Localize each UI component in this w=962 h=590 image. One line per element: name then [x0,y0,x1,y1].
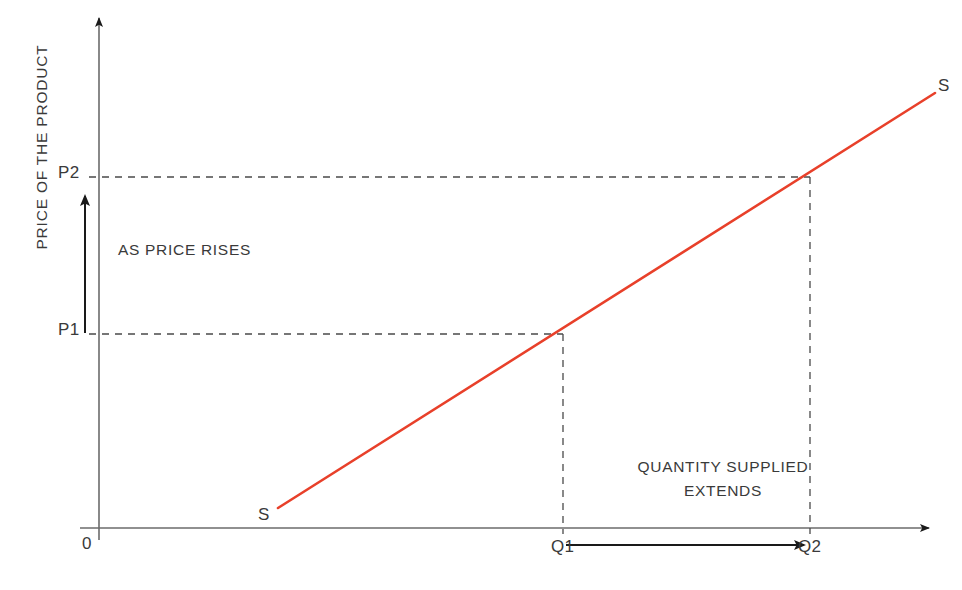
origin-label: 0 [82,534,92,554]
annotation-price-rises: AS PRICE RISES [118,241,251,259]
x-tick-label-q1: Q1 [551,537,574,557]
annotation-quantity-line2: EXTENDS [684,482,762,499]
annotation-quantity-line1: QUANTITY SUPPLIED [638,458,809,475]
supply-curve-label-upper: S [938,76,950,96]
annotation-quantity-extends: QUANTITY SUPPLIEDEXTENDS [608,455,838,503]
y-tick-label-p1: P1 [58,320,80,340]
y-tick-label-p2: P2 [58,163,80,183]
supply-curve-label-lower: S [258,505,270,525]
x-tick-label-q2: Q2 [798,537,821,557]
supply-curve-diagram: PRICE OF THE PRODUCT P2 P1 Q1 Q2 0 AS PR… [0,0,962,590]
supply-curve [278,93,935,508]
y-axis-label: PRICE OF THE PRODUCT [33,17,51,277]
